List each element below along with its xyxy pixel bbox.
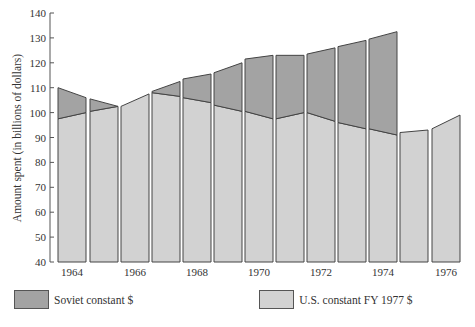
soviet-segment: [183, 74, 211, 103]
x-tick-label: 1968: [186, 266, 209, 278]
y-tick-label: 140: [30, 7, 47, 19]
bar-1974: [369, 32, 397, 262]
us-segment: [400, 130, 428, 262]
bar-1971: [276, 55, 304, 262]
bar-1970: [245, 55, 273, 262]
legend-item-us: U.S. constant FY 1977 $: [259, 290, 412, 309]
y-tick-label: 120: [30, 57, 47, 69]
bars: [58, 32, 460, 262]
y-axis-title: Amount spent (in billions of dollars): [11, 54, 24, 223]
y-tick-label: 70: [35, 181, 47, 193]
us-segment: [276, 113, 304, 262]
bar-1964: [58, 88, 86, 262]
soviet-segment: [369, 32, 397, 135]
us-segment: [183, 98, 211, 262]
us-segment: [307, 113, 335, 262]
x-tick-label: 1976: [435, 266, 458, 278]
y-tick-label: 40: [35, 256, 47, 268]
bar-1967: [152, 81, 180, 262]
y-tick-label: 80: [35, 156, 47, 168]
y-tick-label: 100: [30, 107, 47, 119]
bar-1975: [400, 130, 428, 262]
x-tick-label: 1964: [61, 266, 84, 278]
legend-label-us: U.S. constant FY 1977 $: [299, 294, 412, 306]
us-segment: [338, 123, 366, 262]
us-segment: [121, 94, 149, 262]
us-swatch: [259, 290, 294, 309]
soviet-segment: [214, 63, 242, 112]
y-axis: 405060708090100110120130140: [30, 7, 55, 268]
soviet-segment: [307, 48, 335, 121]
x-tick-label: 1972: [310, 266, 332, 278]
x-tick-label: 1974: [372, 266, 395, 278]
us-segment: [245, 111, 273, 262]
us-segment: [432, 115, 460, 262]
legend-label-soviet: Soviet constant $: [54, 294, 133, 306]
x-tick-label: 1970: [248, 266, 271, 278]
y-tick-label: 90: [35, 132, 47, 144]
soviet-segment: [245, 55, 273, 118]
bar-1969: [214, 63, 242, 262]
x-axis: 1964196619681970197219741976: [61, 266, 458, 278]
y-tick-label: 60: [35, 206, 47, 218]
bar-1973: [338, 40, 366, 262]
legend-item-soviet: Soviet constant $: [14, 290, 133, 309]
legend: Soviet constant $ U.S. constant FY 1977 …: [14, 290, 451, 309]
y-tick-label: 50: [35, 231, 47, 243]
us-segment: [152, 93, 180, 262]
bar-1966: [121, 94, 149, 262]
soviet-segment: [276, 55, 304, 118]
y-tick-label: 110: [30, 82, 47, 94]
soviet-swatch: [14, 290, 49, 309]
bar-1965: [90, 99, 118, 262]
us-segment: [214, 105, 242, 262]
bar-1972: [307, 48, 335, 262]
bar-1968: [183, 74, 211, 262]
us-segment: [90, 106, 118, 262]
y-tick-label: 130: [30, 32, 47, 44]
soviet-segment: [338, 40, 366, 128]
bar-1976: [432, 115, 460, 262]
x-tick-label: 1966: [124, 266, 147, 278]
us-segment: [369, 129, 397, 262]
us-segment: [58, 113, 86, 262]
chart-plot: 405060708090100110120130140 196419661968…: [0, 0, 475, 327]
